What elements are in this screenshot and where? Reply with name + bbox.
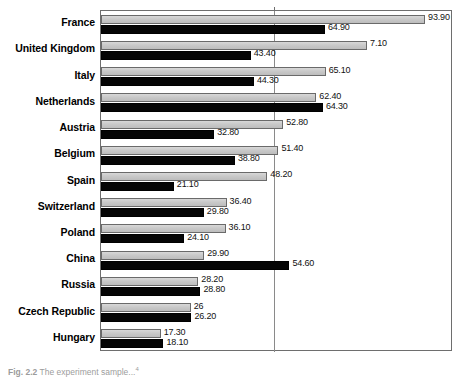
category-label: Spain xyxy=(0,174,95,186)
bar-value-label: 7.10 xyxy=(367,38,387,48)
bar-group-item: 18.10 xyxy=(101,339,451,348)
bar-value-label: 65.10 xyxy=(326,65,351,75)
bar-row: 48.2021.10 xyxy=(101,168,451,194)
bar-value-label: 21.10 xyxy=(174,179,199,189)
bar-group-item: 36.40 xyxy=(101,198,451,207)
bar-value-label: 38.80 xyxy=(235,153,260,163)
bar-group-item: 64.30 xyxy=(101,103,451,112)
bar-group-item: 32.80 xyxy=(101,130,451,139)
bar-value-label: 64.30 xyxy=(323,101,348,111)
chart-plot-area: 93.9064.907.1043.4065.1044.3062.4064.305… xyxy=(100,10,452,351)
bar-value-label: 54.60 xyxy=(289,258,314,268)
bar-group-item: 36.10 xyxy=(101,224,451,233)
bar-series-a[interactable] xyxy=(101,120,283,129)
category-label: Poland xyxy=(0,226,95,238)
bar-group-item: 21.10 xyxy=(101,182,451,191)
bar-series-b[interactable] xyxy=(101,287,200,296)
bar-value-label: 18.10 xyxy=(163,337,188,347)
bar-group-item: 62.40 xyxy=(101,93,451,102)
bar-group-item: 28.80 xyxy=(101,287,451,296)
bar-series-b[interactable] xyxy=(101,77,254,86)
bar-group-item: 26 xyxy=(101,303,451,312)
category-label: Netherlands xyxy=(0,95,95,107)
bar-value-label: 62.40 xyxy=(316,91,341,101)
bar-row: 7.1043.40 xyxy=(101,37,451,63)
bar-group-item: 51.40 xyxy=(101,146,451,155)
bar-row: 36.4029.80 xyxy=(101,195,451,221)
bar-series-b[interactable] xyxy=(101,25,325,34)
bar-group-item: 7.10 xyxy=(101,41,451,50)
category-label: Belgium xyxy=(0,147,95,159)
caption-text: The experiment sample... xyxy=(40,367,136,377)
bar-row: 2626.20 xyxy=(101,300,451,326)
bar-series-b[interactable] xyxy=(101,234,184,243)
category-label: Switzerland xyxy=(0,200,95,212)
category-label: Italy xyxy=(0,69,95,81)
bar-series-b[interactable] xyxy=(101,130,214,139)
bar-row: 36.1024.10 xyxy=(101,221,451,247)
bar-value-label: 32.80 xyxy=(214,127,239,137)
bar-series-b[interactable] xyxy=(101,182,174,191)
bar-row: 62.4064.30 xyxy=(101,90,451,116)
bar-series-b[interactable] xyxy=(101,51,251,60)
bar-group-item: 93.90 xyxy=(101,15,451,24)
bar-group-item: 26.20 xyxy=(101,313,451,322)
bar-series-a[interactable] xyxy=(101,41,367,50)
category-label: Czech Republic xyxy=(0,305,95,317)
figure-caption: Fig. 2.2 The experiment sample...4 xyxy=(8,366,453,377)
category-label: France xyxy=(0,16,95,28)
bar-series-a[interactable] xyxy=(101,93,316,102)
bar-group-item: 28.20 xyxy=(101,277,451,286)
bar-value-label: 29.90 xyxy=(204,248,229,258)
category-label: China xyxy=(0,252,95,264)
bar-series-b[interactable] xyxy=(101,261,289,270)
bar-series-a[interactable] xyxy=(101,251,204,260)
bar-value-label: 36.10 xyxy=(226,222,251,232)
bar-row: 93.9064.90 xyxy=(101,11,451,37)
bar-group-item: 29.90 xyxy=(101,251,451,260)
bar-group-item: 64.90 xyxy=(101,25,451,34)
bar-group-item: 38.80 xyxy=(101,156,451,165)
bar-value-label: 48.20 xyxy=(267,169,292,179)
bar-series-b[interactable] xyxy=(101,103,323,112)
bar-series-a[interactable] xyxy=(101,277,198,286)
bar-group-item: 44.30 xyxy=(101,77,451,86)
bar-group-item: 24.10 xyxy=(101,234,451,243)
bar-row: 29.9054.60 xyxy=(101,247,451,273)
bar-series-b[interactable] xyxy=(101,208,204,217)
bar-series-b[interactable] xyxy=(101,156,235,165)
bar-value-label: 26 xyxy=(191,301,204,311)
bar-value-label: 36.40 xyxy=(227,196,252,206)
bar-group-item: 54.60 xyxy=(101,261,451,270)
bar-row: 17.3018.10 xyxy=(101,326,451,352)
bar-row: 51.4038.80 xyxy=(101,142,451,168)
category-label: Austria xyxy=(0,121,95,133)
category-label: United Kingdom xyxy=(0,42,95,54)
bar-value-label: 93.90 xyxy=(425,12,450,22)
category-label: Hungary xyxy=(0,331,95,343)
bar-row: 52.8032.80 xyxy=(101,116,451,142)
bar-value-label: 43.40 xyxy=(251,48,276,58)
bar-row: 28.2028.80 xyxy=(101,273,451,299)
bar-group-item: 52.80 xyxy=(101,120,451,129)
bar-row: 65.1044.30 xyxy=(101,63,451,89)
bar-group-item: 17.30 xyxy=(101,329,451,338)
bar-value-label: 17.30 xyxy=(161,327,186,337)
bar-series-a[interactable] xyxy=(101,67,326,76)
bar-group-item: 48.20 xyxy=(101,172,451,181)
bar-series-b[interactable] xyxy=(101,339,163,348)
bar-series-b[interactable] xyxy=(101,313,191,322)
category-label: Russia xyxy=(0,278,95,290)
caption-figure-number: Fig. 2.2 xyxy=(8,367,37,377)
bar-value-label: 28.80 xyxy=(200,284,225,294)
bar-series-a[interactable] xyxy=(101,303,191,312)
bar-group-item: 29.80 xyxy=(101,208,451,217)
bar-series-a[interactable] xyxy=(101,329,161,338)
bar-value-label: 24.10 xyxy=(184,232,209,242)
bar-series-a[interactable] xyxy=(101,15,425,24)
bar-value-label: 52.80 xyxy=(283,117,308,127)
bar-value-label: 44.30 xyxy=(254,75,279,85)
caption-footnote-marker: 4 xyxy=(135,366,138,372)
bar-value-label: 26.20 xyxy=(191,311,216,321)
